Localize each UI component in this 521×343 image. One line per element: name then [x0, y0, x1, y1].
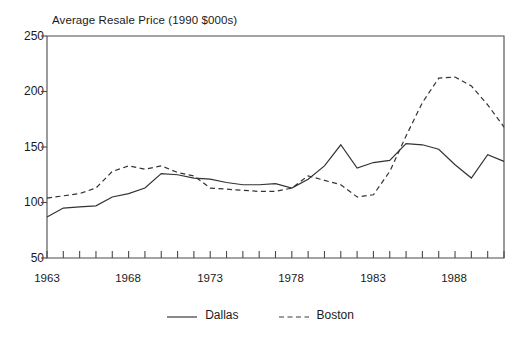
legend-item-dallas: Dallas	[167, 308, 238, 322]
y-axis-ticks	[41, 36, 47, 258]
series-line-boston	[47, 77, 504, 198]
legend-line-dashed-icon	[279, 314, 309, 316]
legend-label-boston: Boston	[317, 308, 354, 322]
series-line-dallas	[47, 144, 504, 217]
chart-legend: Dallas Boston	[0, 308, 521, 322]
legend-label-dallas: Dallas	[205, 308, 238, 322]
plot-area	[0, 0, 521, 343]
legend-item-boston: Boston	[279, 308, 354, 322]
axis-frame	[47, 36, 504, 258]
chart-figure: Average Resale Price (1990 $000s) 250 20…	[0, 0, 521, 343]
x-axis-ticks	[47, 251, 504, 258]
legend-line-solid-icon	[167, 314, 197, 316]
